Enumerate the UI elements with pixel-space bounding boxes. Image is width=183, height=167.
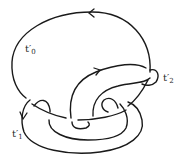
label-t1-sub: 1 <box>18 133 22 141</box>
label-t1: t′1 <box>12 129 23 141</box>
strand-inner-upper-arc <box>70 65 146 118</box>
knot-diagram <box>0 0 183 167</box>
strand-center-loop <box>72 122 89 129</box>
label-t2: t′2 <box>163 73 174 85</box>
label-t2-sub: 2 <box>169 77 173 85</box>
label-t0-sub: 0 <box>31 48 35 56</box>
label-t0: t′0 <box>25 44 36 56</box>
strand-middle-right <box>78 110 126 120</box>
arrow-left-icon <box>89 9 94 17</box>
strand-center-hook <box>102 98 118 112</box>
arrow-down-icon <box>20 112 27 119</box>
strand-t1-outer-bottom <box>22 100 142 153</box>
